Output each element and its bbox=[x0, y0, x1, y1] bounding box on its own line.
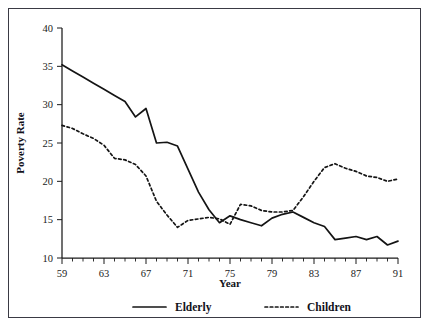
y-tick-label-35: 35 bbox=[43, 61, 54, 72]
chart-legend: Elderly Children bbox=[133, 301, 351, 314]
x-axis-group: 596367717579838791 Year bbox=[57, 258, 404, 289]
legend-label-children: Children bbox=[307, 301, 351, 313]
x-tick-marks bbox=[62, 258, 398, 264]
y-tick-label-10: 10 bbox=[43, 253, 54, 264]
x-tick-label-87: 87 bbox=[351, 268, 362, 279]
x-tick-label-79: 79 bbox=[267, 268, 278, 279]
series-line-children bbox=[62, 125, 398, 227]
x-axis-title: Year bbox=[219, 277, 241, 289]
x-tick-label-71: 71 bbox=[183, 268, 194, 279]
y-tick-label-30: 30 bbox=[43, 99, 54, 110]
y-tick-marks bbox=[57, 28, 62, 258]
x-tick-label-91: 91 bbox=[393, 268, 404, 279]
y-tick-label-40: 40 bbox=[43, 23, 54, 34]
x-tick-label-83: 83 bbox=[309, 268, 320, 279]
x-tick-label-63: 63 bbox=[99, 268, 110, 279]
y-axis-title: Poverty Rate bbox=[14, 112, 26, 174]
y-tick-labels: 10152025303540 bbox=[43, 23, 54, 264]
x-tick-label-67: 67 bbox=[141, 268, 152, 279]
y-tick-label-15: 15 bbox=[43, 214, 54, 225]
poverty-rate-chart-figure: 10152025303540 Poverty Rate 596367717579… bbox=[0, 0, 429, 332]
y-tick-label-20: 20 bbox=[43, 176, 54, 187]
y-tick-label-25: 25 bbox=[43, 138, 54, 149]
data-series-group bbox=[62, 65, 398, 245]
y-axis-group: 10152025303540 Poverty Rate bbox=[14, 23, 62, 264]
x-tick-label-59: 59 bbox=[57, 268, 68, 279]
legend-label-elderly: Elderly bbox=[175, 301, 212, 314]
chart-canvas: 10152025303540 Poverty Rate 596367717579… bbox=[0, 0, 429, 332]
